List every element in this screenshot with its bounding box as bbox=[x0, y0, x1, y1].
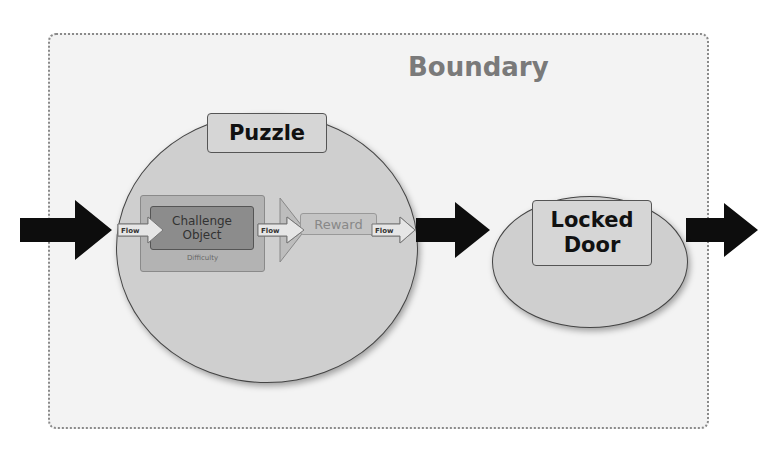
door-line1: Locked bbox=[551, 208, 634, 232]
door-line2: Door bbox=[564, 233, 621, 257]
locked-door-label: LockedDoor bbox=[532, 200, 652, 266]
flow-label-2: Flow bbox=[261, 227, 280, 235]
flow-label-3: Flow bbox=[375, 227, 394, 235]
flow-label-1: Flow bbox=[121, 227, 140, 235]
